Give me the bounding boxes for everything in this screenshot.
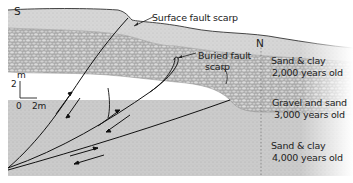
layer3-age: 4,000 years old [272,152,343,163]
buried-fault-scarp-label-line2: scarp [205,61,230,72]
scale-vertical-unit: m [17,70,26,81]
layer3-name: Sand & clay [271,140,325,151]
layer2-age: 3,000 years old [274,109,345,120]
layer1-age: 2,000 years old [272,67,343,78]
north-label: N [256,38,264,49]
scale-bar [20,81,37,98]
layer1-name: Sand & clay [271,55,325,66]
fault-cross-section-diagram: S N Surface fault scarp Buried fault sca… [0,0,353,183]
surface-fault-scarp-label: Surface fault scarp [152,12,238,23]
south-label: S [14,6,20,17]
scale-vertical-value: 2 [11,79,17,90]
scale-origin: 0 [16,101,22,112]
scale-horizontal-value: 2m [32,101,46,112]
buried-fault-scarp-label-line1: Buried fault [198,50,251,61]
layer2-name: Gravel and sand [272,97,347,108]
